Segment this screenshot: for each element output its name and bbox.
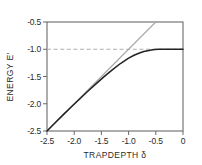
x-tick-label: -0.5 — [149, 136, 163, 146]
x-tick-label: -1.5 — [94, 136, 108, 146]
x-axis-ticks — [47, 131, 183, 135]
chart-figure: -2.5 -2.0 -1.5 -1.0 -0.5 0 -0.5 -1.0 -1.… — [0, 0, 202, 165]
y-axis-title: ENERGY E' — [5, 53, 15, 102]
x-axis-title: TRAPDEPTH δ — [84, 150, 147, 160]
y-tick-label: -0.5 — [27, 17, 41, 27]
y-tick-label: -2.0 — [27, 99, 41, 109]
plot-frame — [47, 22, 183, 131]
y-tick-label: -2.5 — [27, 126, 41, 136]
y-tick-label: -1.5 — [27, 72, 41, 82]
x-tick-label: 0 — [181, 136, 186, 146]
x-tick-label: -2.0 — [67, 136, 81, 146]
y-axis-ticks — [43, 22, 47, 131]
y-tick-label: -1.0 — [27, 44, 41, 54]
energy-vs-trapdepth-chart: -2.5 -2.0 -1.5 -1.0 -0.5 0 -0.5 -1.0 -1.… — [0, 0, 202, 165]
bound-state-energy-curve — [47, 49, 183, 131]
x-tick-label: -2.5 — [40, 136, 54, 146]
x-tick-label: -1.0 — [122, 136, 136, 146]
